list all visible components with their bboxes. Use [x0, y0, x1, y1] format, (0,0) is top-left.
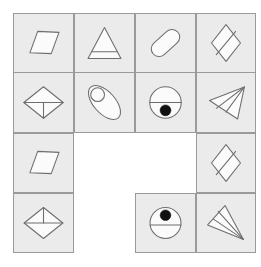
grid-cell-r4c1[interactable] [13, 193, 74, 253]
grid-cell-r2c4[interactable] [196, 72, 256, 133]
parallelogram-icon [14, 14, 73, 72]
ellipse-with-circle-icon [75, 73, 134, 132]
grid-cell-r2c1[interactable] [13, 72, 74, 133]
dart-down-right-icon [197, 194, 255, 252]
grid-cell-r4c2-empty [74, 193, 135, 253]
grid-cell-r1c1[interactable] [13, 13, 74, 73]
grid-cell-r3c1[interactable] [13, 133, 74, 193]
grid-cell-r2c3[interactable] [135, 72, 196, 133]
shape-grid-board [0, 0, 261, 267]
grid-cell-r1c2[interactable] [74, 13, 135, 73]
dart-right-icon [197, 73, 255, 132]
circle-dot-lower-icon [136, 73, 195, 132]
grid-cell-r1c3[interactable] [135, 13, 196, 73]
grid-cell-r2c2[interactable] [74, 72, 135, 133]
grid-cell-r4c4[interactable] [196, 193, 256, 253]
grid-cell-r3c4[interactable] [196, 133, 256, 193]
circle-dot-upper-icon [136, 194, 195, 252]
grid-cell-r1c4[interactable] [196, 13, 256, 73]
rhombus-diagonal-icon [197, 14, 255, 72]
rhombus-down-stem-icon [14, 73, 73, 132]
grid-cell-r3c3-empty [135, 133, 196, 193]
triangle-icon [75, 14, 134, 72]
rhombus-diagonal-icon [197, 134, 255, 192]
grid-cell-r4c3[interactable] [135, 193, 196, 253]
capsule-icon [136, 14, 195, 72]
rhombus-up-stem-icon [14, 194, 73, 252]
grid-cell-r3c2-empty [74, 133, 135, 193]
parallelogram-icon [14, 134, 73, 192]
